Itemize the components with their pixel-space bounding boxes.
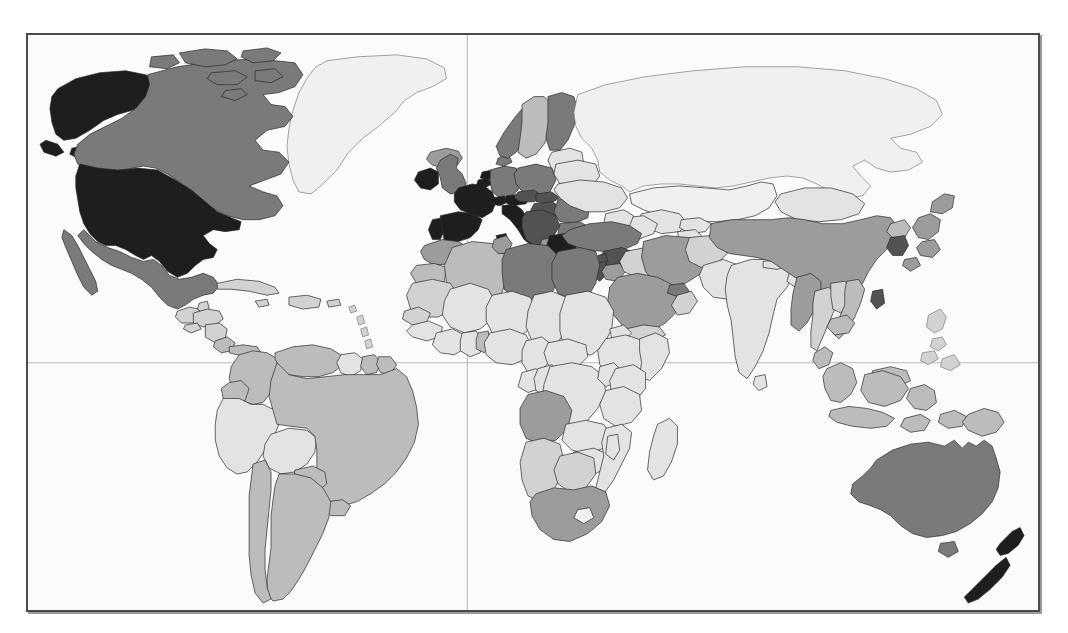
figure-root <box>0 0 1068 633</box>
map-frame <box>26 33 1040 612</box>
world-choropleth-map <box>28 35 1038 610</box>
